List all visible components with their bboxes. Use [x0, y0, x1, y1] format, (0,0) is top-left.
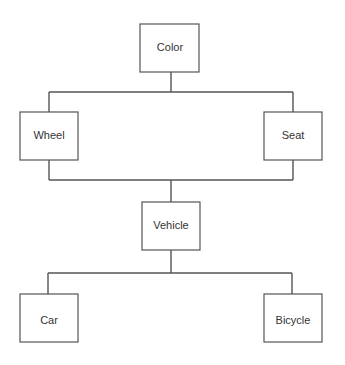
node-label: Wheel: [33, 129, 64, 141]
node-label: Vehicle: [153, 219, 188, 231]
node-label: Bicycle: [276, 314, 311, 326]
node-wheel: Wheel: [20, 112, 78, 160]
diagram-canvas: Color Wheel Seat Vehicle Car Bicycle: [0, 0, 345, 365]
node-color: Color: [140, 24, 199, 72]
node-label: Color: [157, 41, 184, 53]
node-label: Car: [40, 314, 58, 326]
edge-vehicle-to-car-bicycle: [48, 250, 292, 294]
node-vehicle: Vehicle: [142, 202, 200, 250]
edge-wheel-seat-to-vehicle: [49, 160, 293, 202]
node-bicycle: Bicycle: [264, 294, 322, 342]
node-seat: Seat: [264, 112, 322, 160]
edge-color-to-wheel-seat: [49, 72, 293, 112]
node-label: Seat: [282, 129, 305, 141]
node-car: Car: [20, 294, 78, 342]
